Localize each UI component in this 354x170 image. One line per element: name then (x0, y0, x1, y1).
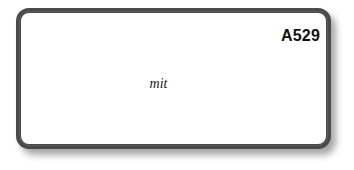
label-card: A529 mit (16, 8, 331, 149)
card-code: A529 (281, 27, 320, 45)
canvas: A529 mit (0, 0, 354, 170)
card-label: mit (21, 76, 326, 92)
